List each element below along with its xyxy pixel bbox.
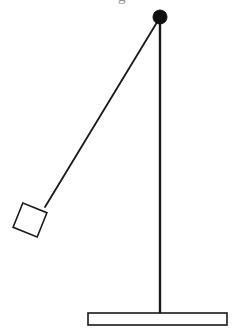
pendulum-canvas	[0, 0, 238, 333]
figure-background	[0, 0, 238, 333]
pivot-point-circle	[153, 10, 167, 24]
cropped-text-fragment: g	[118, 0, 126, 4]
base-platform-rect	[88, 313, 227, 325]
pendulum-figure: g	[0, 0, 238, 333]
